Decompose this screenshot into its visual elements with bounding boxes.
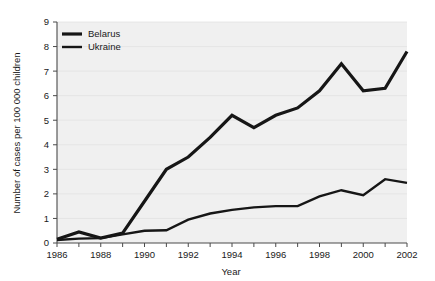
- x-tick-label: 1986: [46, 249, 67, 260]
- x-tick-label: 1990: [134, 249, 155, 260]
- y-axis-title: Number of cases per 100 000 children: [11, 52, 22, 213]
- y-tick-label: 7: [44, 66, 49, 77]
- y-tick-label: 5: [44, 115, 49, 126]
- chart-container: 0123456789 19861988199019921994199619982…: [0, 0, 435, 281]
- y-tick-label: 1: [44, 213, 49, 224]
- x-axis-title: Year: [221, 266, 240, 277]
- x-tick-label: 1992: [178, 249, 199, 260]
- x-tick-label: 1994: [221, 249, 242, 260]
- y-tick-label: 3: [44, 164, 49, 175]
- x-tick-label: 2002: [396, 249, 417, 260]
- x-tick-label: 1988: [90, 249, 111, 260]
- y-tick-label: 4: [44, 139, 49, 150]
- y-tick-label: 9: [44, 16, 49, 27]
- x-tick-label: 1998: [309, 249, 330, 260]
- legend-label-ukraine: Ukraine: [88, 41, 121, 52]
- legend-label-belarus: Belarus: [88, 28, 120, 39]
- y-tick-label: 2: [44, 188, 49, 199]
- line-chart: 0123456789 19861988199019921994199619982…: [0, 0, 435, 281]
- x-tick-label: 2000: [353, 249, 374, 260]
- y-tick-label: 6: [44, 90, 49, 101]
- x-tick-label: 1996: [265, 249, 286, 260]
- y-tick-label: 8: [44, 41, 49, 52]
- y-tick-label: 0: [44, 237, 49, 248]
